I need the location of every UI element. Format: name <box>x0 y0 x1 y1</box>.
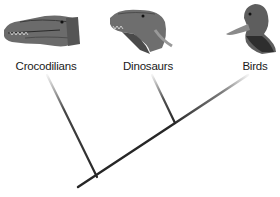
crocodilian-branch <box>47 75 97 177</box>
taxon-label-dinosaurs: Dinosaurs <box>123 60 173 72</box>
duck-head-icon <box>226 4 276 54</box>
crocodile-head-icon <box>4 15 80 46</box>
dinosaur-head-icon <box>110 10 172 54</box>
taxon-label-birds: Birds <box>242 60 267 72</box>
cladogram: Crocodilians Dinosaurs Birds <box>0 0 280 197</box>
trunk-branch <box>78 75 248 187</box>
dinosaur-branch <box>152 75 175 123</box>
taxon-label-crocodilians: Crocodilians <box>16 60 77 72</box>
cladogram-branches <box>0 0 280 197</box>
